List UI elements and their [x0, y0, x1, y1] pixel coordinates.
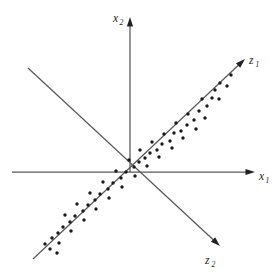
data-point — [205, 104, 208, 107]
data-point — [155, 148, 158, 151]
data-point — [120, 185, 123, 188]
data-point — [93, 198, 96, 201]
data-point — [210, 96, 213, 99]
data-point — [186, 112, 189, 115]
data-point — [170, 146, 173, 149]
axis-label-subscript-z2: 2 — [212, 260, 216, 269]
data-point — [168, 139, 171, 142]
data-point — [132, 165, 135, 168]
data-point — [106, 187, 109, 190]
data-point — [81, 209, 84, 212]
axis-label-base-x2: x — [112, 12, 119, 24]
data-point — [192, 118, 195, 121]
data-point — [137, 160, 140, 163]
data-point — [43, 242, 46, 245]
data-point — [48, 247, 51, 250]
data-point — [82, 218, 85, 221]
data-point — [111, 181, 114, 184]
data-point — [185, 123, 188, 126]
figure-canvas: x1x2z1z2 — [0, 0, 277, 273]
data-point — [174, 121, 177, 124]
data-point — [148, 151, 151, 154]
data-point — [69, 229, 72, 232]
data-point — [73, 214, 76, 217]
scatter-figure: x1x2z1z2 — [0, 0, 277, 273]
data-point — [101, 180, 104, 183]
data-point — [56, 231, 59, 234]
data-point — [225, 84, 228, 87]
data-point — [218, 81, 221, 84]
data-point — [55, 251, 58, 254]
axis-label-base-z1: z — [248, 54, 254, 66]
data-point — [194, 127, 197, 130]
data-point — [88, 191, 91, 194]
data-point — [57, 241, 60, 244]
data-point — [133, 174, 136, 177]
data-point — [160, 142, 163, 145]
data-point — [181, 136, 184, 139]
axis-label-base-z2: z — [204, 254, 210, 266]
data-point — [217, 97, 220, 100]
data-point — [124, 170, 127, 173]
data-point — [203, 116, 206, 119]
data-point — [172, 131, 175, 134]
axis-label-base-x1: x — [258, 170, 265, 182]
data-point — [179, 129, 182, 132]
axis-label-subscript-z1: 1 — [256, 60, 260, 69]
data-point — [157, 155, 160, 158]
data-point — [119, 176, 122, 179]
data-point — [63, 213, 66, 216]
data-point — [68, 220, 71, 223]
data-point — [200, 97, 203, 100]
data-point — [213, 88, 216, 91]
data-point — [94, 207, 97, 210]
data-point — [150, 140, 153, 143]
data-point — [143, 156, 146, 159]
figure-background — [0, 0, 277, 273]
data-point — [145, 164, 148, 167]
data-point — [197, 109, 200, 112]
data-point — [138, 148, 141, 151]
data-point — [162, 132, 165, 135]
axis-label-subscript-x1: 1 — [266, 176, 270, 185]
data-point — [114, 169, 117, 172]
data-point — [50, 236, 53, 239]
data-point — [229, 73, 232, 76]
data-point — [127, 158, 130, 161]
data-point — [107, 196, 110, 199]
data-point — [75, 202, 78, 205]
data-point — [61, 225, 64, 228]
data-point — [86, 203, 89, 206]
data-point — [98, 192, 101, 195]
axis-label-subscript-x2: 2 — [120, 18, 124, 27]
